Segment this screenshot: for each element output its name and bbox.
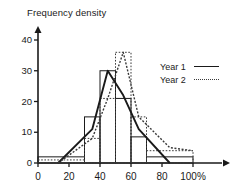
histogram-bar (131, 117, 147, 163)
x-axis-arrow (223, 160, 230, 167)
x-axis-tick-label: 40 (84, 171, 116, 182)
legend-label-year-1: Year 1 (160, 62, 190, 72)
x-axis-tick-label: 60 (115, 171, 147, 182)
x-axis-tick-label: 0 (22, 171, 54, 182)
legend-item-year-2: Year 2 (160, 73, 219, 86)
legend-swatch-dotted-line (194, 79, 219, 81)
y-axis-tick-label: 0 (8, 157, 32, 168)
chart-legend: Year 1 Year 2 (160, 60, 219, 86)
x-axis-tick-label: 20 (53, 171, 85, 182)
plot-area (0, 0, 238, 193)
x-axis-tick-label: 80 (146, 171, 178, 182)
y-axis-arrow (35, 26, 42, 33)
y-axis-tick-label: 10 (8, 126, 32, 137)
histogram-bar (100, 98, 116, 163)
legend-label-year-2: Year 2 (160, 75, 190, 85)
y-axis-tick-label: 30 (8, 65, 32, 76)
histogram-bar (131, 137, 147, 163)
histogram-bar (85, 138, 101, 163)
histogram-bar (100, 71, 116, 163)
y-axis-tick-label: 20 (8, 96, 32, 107)
x-axis-tick-label: 100% (177, 171, 209, 182)
legend-item-year-1: Year 1 (160, 60, 219, 73)
frequency-polygon (58, 71, 170, 163)
frequency-density-chart: Frequency density Year 1 Year 2 01020304… (0, 0, 238, 193)
y-axis-tick-label: 40 (8, 34, 32, 45)
legend-swatch-solid-line (194, 66, 219, 68)
